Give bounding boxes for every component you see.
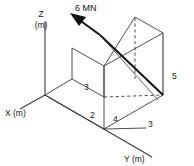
force-line-secondary <box>100 35 158 100</box>
dimension-label-depth-x: 3 <box>148 119 153 129</box>
block-group <box>104 17 163 97</box>
base-edge-front-right <box>104 128 146 129</box>
z-axis-unit: (m) <box>35 20 48 30</box>
block-top-edge-back-right <box>135 17 163 33</box>
upper-left-slant <box>72 48 104 66</box>
force-diagram-figure: Z (m) X (m) Y (m) 6 MN 3 2 4 3 5 <box>0 0 194 166</box>
block-top-edge-front-left <box>104 17 135 66</box>
y-axis-label: Y (m) <box>124 154 145 164</box>
force-line-primary <box>100 35 163 95</box>
z-axis-label: Z <box>38 9 43 19</box>
dimension-label-offset-x: 2 <box>90 110 95 120</box>
x-axis-label: X (m) <box>5 108 26 118</box>
base-edge-origin-back <box>45 79 72 95</box>
x-axis-line <box>20 95 45 109</box>
dimension-label-length-y: 4 <box>113 114 118 124</box>
diagram-canvas: Z (m) X (m) Y (m) 6 MN 3 2 4 3 5 <box>0 0 194 166</box>
dimension-label-height-left: 3 <box>84 82 89 92</box>
dimension-label-height-right: 5 <box>172 71 177 81</box>
force-label: 6 MN <box>75 3 97 13</box>
base-edge-front <box>45 95 104 129</box>
